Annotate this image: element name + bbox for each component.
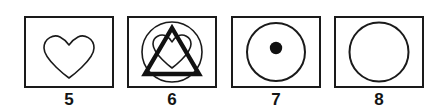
dot-shape bbox=[270, 42, 282, 54]
figure-panel-6: 6 bbox=[127, 16, 217, 88]
heart-shape bbox=[44, 36, 94, 78]
panel-5-artwork bbox=[24, 16, 114, 88]
panel-6-artwork bbox=[127, 16, 217, 88]
panel-7-artwork bbox=[231, 16, 321, 88]
figure-panel-7: 7 bbox=[231, 16, 321, 88]
panel-label-7: 7 bbox=[231, 90, 321, 110]
panel-8-artwork bbox=[334, 16, 424, 88]
figure-strip: 5 6 7 8 bbox=[0, 0, 445, 112]
circle-shape bbox=[350, 23, 409, 82]
panel-label-5: 5 bbox=[24, 90, 114, 110]
panel-label-8: 8 bbox=[334, 90, 424, 110]
figure-panel-5: 5 bbox=[24, 16, 114, 88]
figure-panel-8: 8 bbox=[334, 16, 424, 88]
panel-label-6: 6 bbox=[127, 90, 217, 110]
